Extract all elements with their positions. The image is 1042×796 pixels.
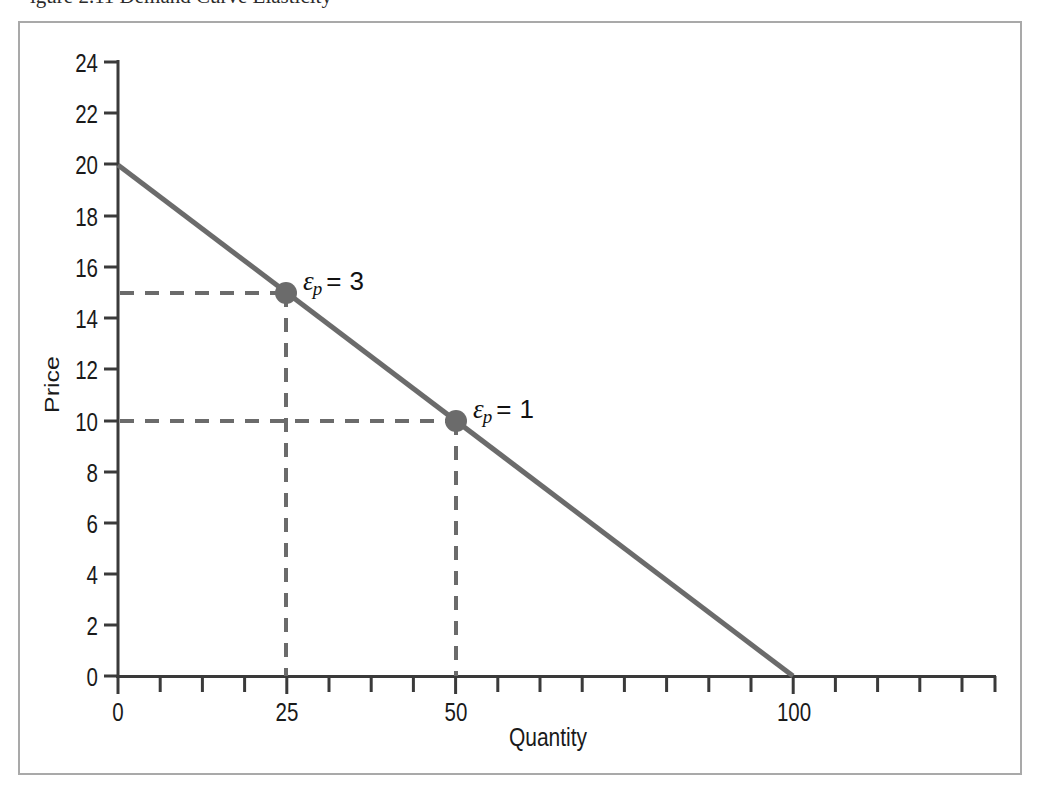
y-tick-label-2: 2 bbox=[50, 612, 98, 641]
x-tick-label-0: 0 bbox=[102, 698, 135, 727]
annotation-ep1: εp= 1 bbox=[473, 394, 535, 428]
y-axis-title: Price bbox=[40, 340, 64, 430]
annotation-ep1-value: = 1 bbox=[496, 394, 534, 424]
x-tick-label-50: 50 bbox=[436, 698, 477, 727]
y-tick-label-4: 4 bbox=[50, 561, 98, 590]
y-tick-label-16: 16 bbox=[50, 254, 98, 283]
x-tick-label-25: 25 bbox=[267, 698, 308, 727]
y-tick-label-8: 8 bbox=[50, 459, 98, 488]
y-tick-label-24: 24 bbox=[50, 49, 98, 78]
y-tick-label-14: 14 bbox=[50, 305, 98, 334]
x-tick-label-100: 100 bbox=[767, 698, 821, 727]
annotation-ep3-value: = 3 bbox=[326, 266, 364, 296]
figure-caption-partial: igure 2.11 Demand Curve Elasticity bbox=[0, 0, 1042, 13]
y-tick-label-0: 0 bbox=[50, 663, 98, 692]
annotation-ep1-subscript: p bbox=[483, 406, 493, 427]
y-tick-label-20: 20 bbox=[50, 151, 98, 180]
figure-caption-text: igure 2.11 Demand Curve Elasticity bbox=[30, 0, 332, 9]
annotation-ep3-subscript: p bbox=[313, 278, 323, 299]
x-axis-title: Quantity bbox=[489, 723, 607, 752]
y-tick-label-22: 22 bbox=[50, 100, 98, 129]
y-tick-label-18: 18 bbox=[50, 203, 98, 232]
annotation-ep3: εp= 3 bbox=[303, 266, 365, 300]
y-tick-label-6: 6 bbox=[50, 510, 98, 539]
